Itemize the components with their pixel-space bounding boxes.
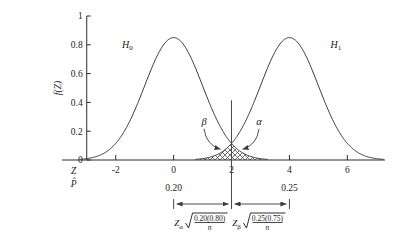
- leader-beta: [204, 129, 221, 149]
- y-tick-label: 1: [78, 11, 83, 21]
- hypothesis-test-figure: 00.20.40.60.81f(Z) -20246 H0H1 βα ZP̂ 0.…: [0, 0, 412, 241]
- curve-h1: [195, 38, 383, 160]
- y-tick-label: 0.6: [71, 69, 83, 79]
- radicand-denominator: n: [208, 223, 212, 232]
- dimension-beta-margin: Zβ0.25(0.75)n: [232, 199, 290, 232]
- formula-z-symbol: Zα: [174, 218, 183, 231]
- dimension-bars: Zα0.20(0.80)nZβ0.25(0.75)n: [174, 199, 290, 232]
- y-tick-label: 0.2: [71, 127, 83, 137]
- x-tick-label: 0: [171, 165, 176, 175]
- x-tick-label: 4: [287, 165, 292, 175]
- formula-z-symbol: Zβ: [232, 218, 241, 231]
- label-h1: H1: [329, 39, 341, 53]
- x-tick-label: 6: [345, 165, 350, 175]
- y-tick-label: 0.4: [71, 98, 83, 108]
- x-tick-label: -2: [112, 165, 120, 175]
- curve-h0: [80, 38, 268, 160]
- proportion-label: 0.25: [281, 183, 298, 193]
- hypothesis-labels: H0H1: [121, 39, 342, 53]
- label-h0: H0: [121, 39, 133, 53]
- dimension-alpha-margin: Zα0.20(0.80)n: [174, 199, 232, 232]
- axis-name-labels: ZP̂: [70, 166, 77, 189]
- chart-canvas: 00.20.40.60.81f(Z) -20246 H0H1 βα ZP̂ 0.…: [0, 0, 412, 241]
- proportion-label: 0.20: [165, 183, 182, 193]
- x-axis-name-z: Z: [71, 166, 77, 176]
- radicand-numerator: 0.25(0.75): [252, 214, 284, 223]
- x-axis-name-phat: P̂: [70, 177, 77, 189]
- y-tick-label: 0.8: [71, 40, 83, 50]
- radicand-denominator: n: [266, 223, 270, 232]
- label-alpha: α: [256, 116, 262, 127]
- leader-alpha: [243, 129, 260, 149]
- label-beta: β: [200, 116, 207, 127]
- y-axis: 00.20.40.60.81f(Z): [53, 11, 91, 165]
- y-axis-title: f(Z): [53, 81, 64, 95]
- radicand-numerator: 0.20(0.80): [194, 214, 226, 223]
